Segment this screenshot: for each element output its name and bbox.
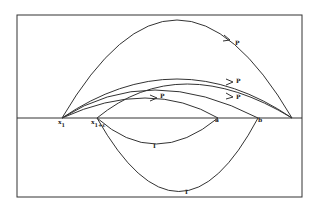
label-i: I bbox=[153, 142, 156, 149]
arc-i-small bbox=[97, 118, 218, 144]
label-p: P bbox=[236, 77, 241, 84]
label-p: P bbox=[236, 93, 241, 100]
label-i: I bbox=[185, 188, 188, 195]
label-x1: x1 bbox=[58, 118, 65, 128]
label-p: P bbox=[160, 92, 165, 99]
arc-p-large bbox=[62, 20, 292, 118]
arrow-icon bbox=[226, 79, 233, 85]
label-b: b bbox=[258, 116, 262, 123]
label-a: a bbox=[215, 116, 219, 123]
frame-border bbox=[17, 15, 302, 197]
label-p: P bbox=[235, 39, 240, 46]
arc-i-large bbox=[97, 118, 258, 192]
trajectory-diagram: P P P P I I x1 x1+ε a b bbox=[0, 0, 316, 209]
arrow-icon bbox=[226, 93, 233, 99]
arc-p-to-a bbox=[62, 98, 218, 118]
